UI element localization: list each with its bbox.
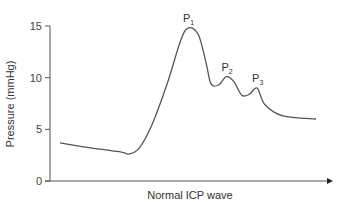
y-axis-title: Pressure (mmHg) (4, 61, 16, 148)
y-tick-label: 15 (30, 20, 42, 32)
x-axis-title: Normal ICP wave (147, 189, 232, 201)
x-axis (45, 178, 333, 184)
x-axis-arrow-icon (327, 178, 333, 184)
y-tick-label: 5 (36, 123, 42, 135)
y-tick-label: 0 (36, 175, 42, 187)
peak-label-p1: P1 (183, 12, 194, 26)
icp-wave-curve (60, 28, 316, 155)
peak-label-p2: P2 (221, 61, 232, 75)
y-tick-label: 10 (30, 72, 42, 84)
y-axis: 051015 (30, 20, 50, 187)
peak-label-p3: P3 (252, 72, 263, 86)
peak-annotations: P1P2P3 (183, 12, 263, 86)
icp-waveform-chart: 051015 P1P2P3 Pressure (mmHg) Normal ICP… (0, 0, 349, 203)
